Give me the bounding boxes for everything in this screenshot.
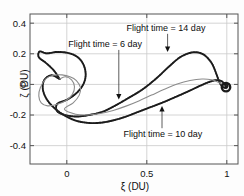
annotation-flight-time-14: Flight time = 14 day [127, 23, 206, 33]
terminal-point [224, 86, 227, 89]
x-axis-title-text: ξ (DU) [121, 181, 149, 192]
figure-container: Flight time = 14 dayFlight time = 6 dayF… [0, 0, 244, 196]
y-axis-title: ζ (DU) [19, 54, 30, 114]
x-axis-title: ξ (DU) [0, 181, 244, 192]
annotation-flight-time-6: Flight time = 6 day [68, 39, 142, 49]
y-axis-title-text: ζ (DU) [19, 69, 30, 97]
y-tick-label: 0.4 [13, 18, 26, 29]
x-tick-label: 0.5 [140, 168, 153, 179]
grid-layer [30, 14, 238, 164]
x-tick-label: 0 [64, 168, 69, 179]
y-tick-label: -0.4 [10, 140, 26, 151]
trajectory-plot: Flight time = 14 dayFlight time = 6 dayF… [0, 0, 244, 196]
annotation-flight-time-10: Flight time = 10 day [123, 129, 202, 139]
x-tick-label: 1 [224, 168, 229, 179]
